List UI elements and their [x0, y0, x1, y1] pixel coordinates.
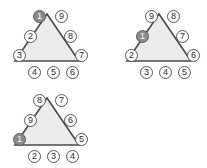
triangle-group-2: 981726345	[112, 0, 207, 84]
node-triangle-2-left-lower: 2	[125, 49, 138, 62]
node-triangle-3-apex-left: 8	[33, 94, 46, 107]
node-triangle-3-bottom-right: 4	[66, 150, 79, 163]
node-triangle-2-bottom-right: 5	[178, 66, 191, 79]
node-triangle-2-bottom-center: 4	[159, 66, 172, 79]
node-triangle-1-left-lower: 3	[13, 49, 26, 62]
node-triangle-2-apex-right: 8	[167, 10, 180, 23]
figure-canvas: 192837456 981726345 879615234	[0, 0, 207, 168]
node-triangle-1-right-lower: 7	[75, 49, 88, 62]
node-triangle-2-right-upper: 7	[176, 30, 189, 43]
triangle-group-3: 879615234	[0, 84, 95, 168]
node-triangle-1-bottom-left: 4	[28, 66, 41, 79]
node-triangle-3-left-lower: 1	[13, 133, 26, 146]
node-triangle-2-right-lower: 6	[187, 49, 200, 62]
node-triangle-3-bottom-center: 3	[47, 150, 60, 163]
node-triangle-3-right-upper: 6	[64, 114, 77, 127]
node-triangle-1-right-upper: 8	[64, 30, 77, 43]
node-triangle-1-left-upper: 2	[24, 30, 37, 43]
node-triangle-3-bottom-left: 2	[28, 150, 41, 163]
node-triangle-3-right-lower: 5	[75, 133, 88, 146]
node-triangle-3-apex-right: 7	[55, 94, 68, 107]
node-triangle-1-bottom-right: 6	[66, 66, 79, 79]
node-triangle-2-bottom-left: 3	[140, 66, 153, 79]
triangle-group-1: 192837456	[0, 0, 95, 84]
node-triangle-1-bottom-center: 5	[47, 66, 60, 79]
node-triangle-1-apex-right: 9	[55, 10, 68, 23]
node-triangle-2-apex-left: 9	[145, 10, 158, 23]
node-triangle-3-left-upper: 9	[24, 114, 37, 127]
node-triangle-2-left-upper: 1	[136, 30, 149, 43]
node-triangle-1-apex-left: 1	[33, 10, 46, 23]
